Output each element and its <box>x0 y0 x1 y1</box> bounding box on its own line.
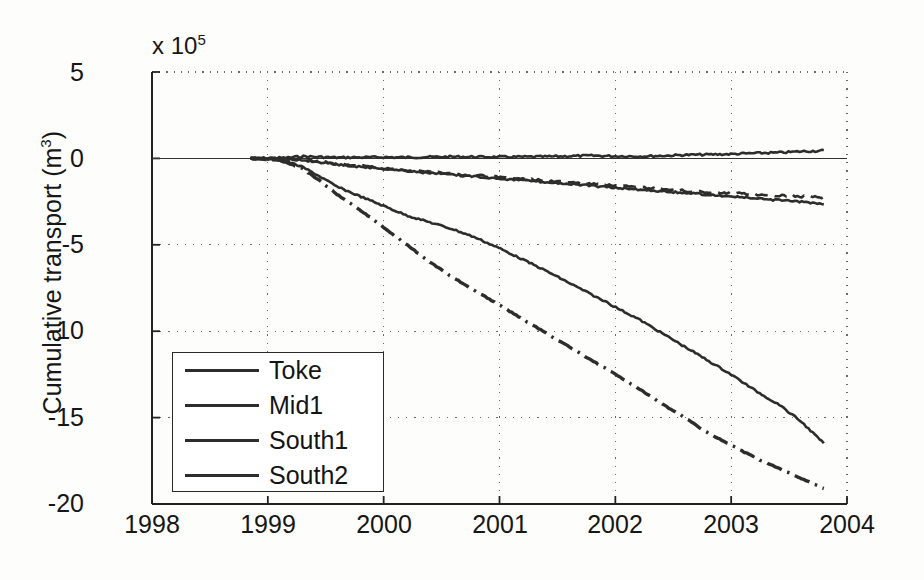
series-line-toke <box>250 150 823 159</box>
legend: Toke Mid1 South1 South2 <box>172 352 384 492</box>
legend-item-south2: South2 <box>173 458 383 493</box>
chart-figure: Cumulative transport (m3) x 105 5 0 -5 -… <box>0 0 924 580</box>
legend-line-swatch <box>185 439 259 442</box>
plot-area <box>0 0 924 580</box>
legend-label: South2 <box>269 463 348 488</box>
legend-item-mid1: Mid1 <box>173 388 383 423</box>
legend-line-swatch <box>185 369 259 372</box>
legend-line-swatch <box>185 404 259 407</box>
legend-label: Mid1 <box>269 393 323 418</box>
legend-item-south1: South1 <box>173 423 383 458</box>
legend-label: Toke <box>269 358 322 383</box>
series-line-south1 <box>250 158 823 205</box>
legend-label: South1 <box>269 428 348 453</box>
legend-item-toke: Toke <box>173 353 383 388</box>
legend-line-swatch <box>185 474 259 477</box>
